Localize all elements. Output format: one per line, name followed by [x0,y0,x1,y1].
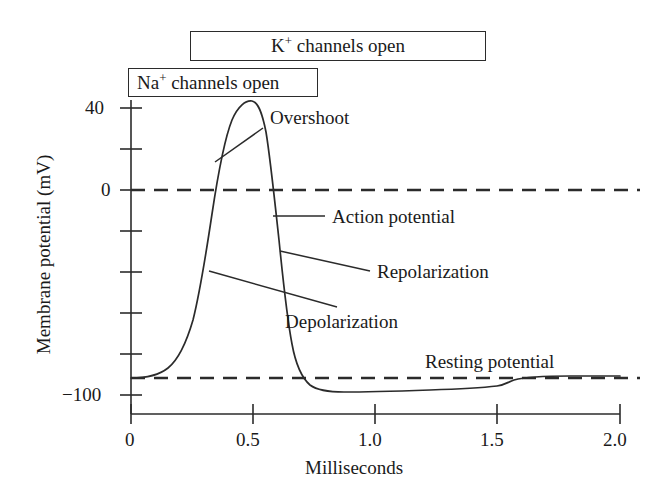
na-channels-open-box: Na+ channels open [128,68,318,97]
overshoot-leader-line [215,128,263,162]
overshoot-label: Overshoot [270,108,349,127]
x-tick-label-1-5: 1.5 [480,430,504,449]
repolarization-leader-line [280,251,370,271]
plot-area [0,0,665,498]
y-tick-label-minus-100: −100 [62,385,101,404]
k-channels-open-box: K+ channels open [190,31,486,61]
k-channels-label: K+ channels open [271,35,405,57]
action-potential-figure: 40 0 −100 0 0.5 1.0 1.5 2.0 Membrane pot… [0,0,665,498]
x-tick-label-0-5: 0.5 [236,430,260,449]
x-tick-label-0: 0 [125,430,135,449]
na-channels-label: Na+ channels open [137,72,279,94]
y-tick-label-40: 40 [85,98,104,117]
action-potential-curve [131,101,620,392]
x-axis-title: Milliseconds [305,458,403,477]
depolarization-label: Depolarization [285,312,398,331]
x-tick-label-1-0: 1.0 [358,430,382,449]
resting-potential-label: Resting potential [425,352,554,371]
y-axis-title: Membrane potential (mV) [34,150,53,360]
depolarization-leader-line [209,271,337,307]
repolarization-label: Repolarization [377,262,489,281]
y-tick-label-0: 0 [101,180,111,199]
x-tick-label-2-0: 2.0 [603,430,627,449]
action-potential-label: Action potential [332,207,455,226]
